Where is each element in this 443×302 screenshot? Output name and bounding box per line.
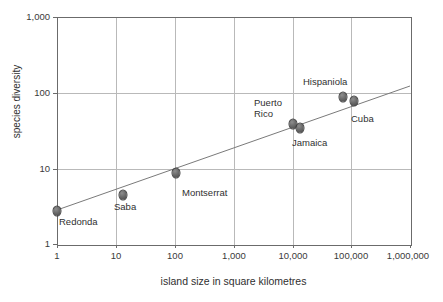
data-point-redonda[interactable] [53,206,62,217]
data-point-label-puerto-rico: Puerto Rico [254,97,282,119]
x-tick-label-100000: 100,000 [334,250,368,261]
data-point-label-montserrat: Montserrat [182,187,227,198]
x-tick-label-1000: 1,000 [222,250,246,261]
x-tick-label-100: 100 [167,250,183,261]
x-tick-label-1: 1 [54,250,59,261]
gridline-x-1000 [234,18,235,245]
y-tick-label: 100 [4,88,50,98]
data-point-label-jamaica: Jamaica [292,137,327,148]
gridline-x-100000 [351,18,352,245]
y-axis-title: species diversity [11,42,22,162]
data-point-montserrat[interactable] [172,168,181,179]
data-point-saba[interactable] [119,190,128,201]
x-tick-label-10000: 10,000 [278,250,307,261]
data-point-jamaica[interactable] [296,123,305,134]
gridline-x-10000 [293,18,294,245]
y-tick-label: 1 [4,239,50,249]
x-tick-label-1000000: 1,000,000 [387,250,429,261]
y-tick-label: 10 [4,164,50,174]
data-point-label-hispaniola: Hispaniola [303,76,347,87]
species-area-chart-figure: species diversity 1,000 100 10 1 1 10 10… [0,0,443,302]
data-point-cuba[interactable] [350,96,359,107]
data-point-label-cuba: Cuba [351,113,374,124]
data-point-label-saba: Saba [114,201,136,212]
y-tick-100: 100 [0,88,50,98]
y-tick-1000: 1,000 [0,12,50,22]
data-point-label-redonda: Redonda [59,216,98,227]
data-point-hispaniola[interactable] [339,92,348,103]
x-axis-title: island size in square kilometres [57,275,410,287]
y-tick-1: 1 [0,239,50,249]
gridline-x-100 [175,18,176,245]
y-tick-10: 10 [0,164,50,174]
y-tick-label: 1,000 [4,12,50,22]
plot-area [57,17,412,246]
x-tick-label-10: 10 [111,250,122,261]
